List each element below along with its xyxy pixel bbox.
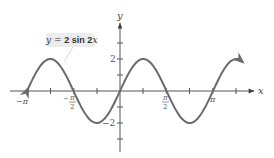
y-axis-label: y [116,10,123,21]
x-tick-label-neg-pi: −π [16,97,29,106]
equation-label: y = 2 sin 2x [46,33,95,47]
eq-x: x [92,35,97,45]
eq-body: 2 sin 2 [64,35,92,45]
x-tick-label-pi-half: π 2 [162,94,169,111]
svg-text:π: π [69,94,75,102]
y-tick-label-2: 2 [110,54,116,64]
x-tick-label-neg-pi-half: − π 2 [63,94,76,111]
svg-text:−: − [63,95,69,103]
svg-text:2: 2 [70,103,74,111]
x-tick-label-pi: π [209,95,216,104]
sine-graph: y x −π − π 2 π 2 π 2 −2 [0,0,274,158]
y-tick-label-neg-2: −2 [102,118,115,128]
eq-equals: = [51,35,64,45]
label-leader-line [64,47,73,62]
x-axis-label: x [258,85,264,96]
svg-text:2: 2 [163,103,167,111]
svg-text:π: π [162,94,168,102]
